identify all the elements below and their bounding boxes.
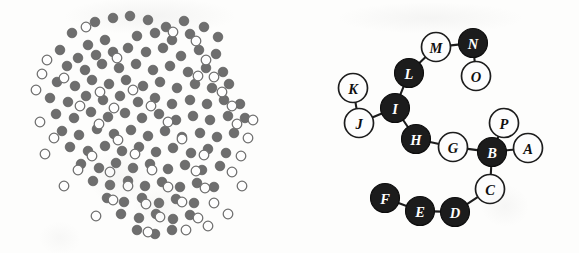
cluster-dot-open [81,22,91,32]
cluster-dot-filled [81,91,91,101]
graph-node-label-m: M [429,40,444,56]
graph-edge-c-d [466,196,479,205]
graph-node-j[interactable]: J [345,109,374,138]
cluster-dot-open [35,117,45,127]
cluster-dot-open [177,134,187,144]
graph-node-label-d: D [449,205,461,221]
cluster-dot-open [105,167,115,177]
graph-node-k[interactable]: K [339,74,368,103]
cluster-dot-open [227,101,237,111]
cluster-dot-filled [207,83,217,93]
graph-node-b[interactable]: B [478,138,507,167]
cluster-dot-filled [199,22,209,32]
cluster-dot-filled [114,63,124,73]
graph-node-f[interactable]: F [371,184,400,213]
cluster-dot-filled [51,109,61,119]
graph-node-p[interactable]: P [490,109,519,138]
graph-node-label-o: O [471,69,482,85]
cluster-dot-filled [87,75,97,85]
cluster-dot-open [209,198,219,208]
graph-node-g[interactable]: G [439,133,468,162]
node-link-graph-plot: ABCDEFGHIJKLMNOP [296,0,579,253]
graph-node-o[interactable]: O [462,62,491,91]
cluster-dot-filled [100,35,110,45]
cluster-dot-open [123,181,133,191]
cluster-dot-filled [115,91,125,101]
cluster-dot-filled [97,59,107,69]
cluster-dot-open [223,209,233,219]
cluster-dot-filled [224,79,234,89]
cluster-dot-filled [108,13,118,23]
cluster-dot-open [143,227,153,237]
cluster-dot-open [31,85,41,95]
graph-node-label-e: E [414,204,425,220]
cluster-dot-open [87,151,97,161]
graph-node-h[interactable]: H [402,125,431,154]
cluster-dot-open [128,85,138,95]
cluster-dot-open [217,87,227,97]
cluster-dot-filled [73,53,83,63]
cluster-dot-filled [165,61,175,71]
cluster-dot-open [203,221,213,231]
cluster-dot-filled [117,146,127,156]
graph-node-m[interactable]: M [422,33,451,62]
cluster-dot-filled [148,65,158,75]
cluster-dot-open [42,55,52,65]
cluster-dot-open [191,166,201,176]
cluster-dot-filled [120,108,130,118]
cluster-dot-filled [221,148,231,158]
graph-node-layer: ABCDEFGHIJKLMNOP [339,29,543,227]
cluster-dot-filled [143,15,153,25]
graph-node-label-a: A [522,141,533,157]
cluster-dot-filled [103,112,113,122]
cluster-dot-filled [55,45,65,55]
cluster-dot-filled [131,59,141,69]
graph-node-a[interactable]: A [514,134,543,163]
graph-node-d[interactable]: D [441,198,470,227]
graph-node-label-p: P [500,116,509,132]
cluster-dot-open [130,149,140,159]
cluster-dot-open [243,133,253,143]
cluster-dot-filled [229,128,239,138]
cluster-dot-filled [111,158,121,168]
cluster-dot-filled [188,111,198,121]
cluster-dot-open [146,101,156,111]
cluster-dot-open [168,27,178,37]
graph-node-e[interactable]: E [406,197,435,226]
cluster-dot-open [236,151,246,161]
graph-node-i[interactable]: I [381,94,410,123]
cluster-dot-filled [151,147,161,157]
graph-node-label-n: N [467,36,479,52]
cluster-dot-filled [218,67,228,77]
cluster-dot-filled [167,225,177,235]
cluster-dot-filled [160,126,170,136]
cluster-dot-filled [63,97,73,107]
cluster-dot-filled [194,45,204,55]
cluster-dot-filled [125,11,135,21]
cluster-dot-filled [133,97,143,107]
cluster-dot-filled [168,214,178,224]
cluster-dot-filled [223,111,233,121]
node-graph-panel: ABCDEFGHIJKLMNOP [296,0,579,253]
cluster-dot-filled [143,131,153,141]
cluster-dot-filled [154,198,164,208]
cluster-dot-filled [119,197,129,207]
cluster-dot-open [108,195,118,205]
cluster-dot-open [49,133,59,143]
cluster-dot-open [193,213,203,223]
cluster-dot-filled [158,43,168,53]
cluster-dot-open [163,182,173,192]
cluster-dot-filled [175,182,185,192]
graph-node-l[interactable]: L [395,59,424,88]
cluster-dot-filled [189,198,199,208]
cluster-dot-filled [128,163,138,173]
particle-cluster-plot [0,0,296,253]
cluster-dot-open [141,199,151,209]
graph-node-label-k: K [347,81,359,97]
cluster-dot-filled [57,126,67,136]
cluster-dot-open [199,150,209,160]
cluster-dot-filled [209,182,219,192]
graph-node-n[interactable]: N [459,29,488,58]
cluster-dot-open [155,212,165,222]
graph-node-c[interactable]: C [476,175,505,204]
